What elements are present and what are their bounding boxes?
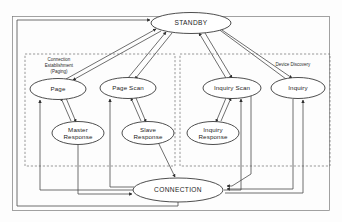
edge-connection-to-page (40, 100, 133, 190)
node-inquiry-scan-label: Inquiry Scan (214, 84, 251, 91)
node-page-scan[interactable]: Page Scan (100, 78, 156, 99)
edge-slave-response-to-page-scan (131, 98, 141, 121)
group-label-connection-establishment-line1: Connection (48, 57, 71, 62)
edge-connection-to-page-scan (110, 99, 134, 187)
bluetooth-state-diagram: Connection Establishment (Paging) Device… (0, 0, 342, 222)
edge-connection-to-inquiry-scan (224, 99, 241, 190)
edge-inquiry-response-to-inquiry-scan (221, 98, 231, 121)
node-inquiry[interactable]: Inquiry (271, 78, 325, 99)
edge-standby-to-page-scan (135, 33, 172, 79)
node-slave-response[interactable]: Slave Response (122, 122, 174, 145)
edge-connection-to-standby (17, 20, 178, 206)
group-box-device-discovery (180, 54, 330, 166)
edge-standby-to-page (73, 31, 161, 80)
group-box-connection-establishment (25, 54, 175, 166)
edge-inquiry-to-standby (217, 28, 286, 79)
node-inquiry-response[interactable]: Inquiry Response (187, 122, 239, 145)
group-label-connection-establishment-line2: Establishment (45, 63, 74, 68)
edge-connection-to-inquiry (225, 100, 303, 193)
node-master-response-label-line2: Response (63, 133, 92, 140)
node-inquiry-scan[interactable]: Inquiry Scan (203, 78, 261, 99)
node-standby[interactable]: STANDBY (151, 13, 231, 34)
node-page-scan-label: Page Scan (112, 84, 144, 91)
node-inquiry-response-label-line2: Response (198, 133, 227, 140)
node-slave-response-label-line1: Slave (140, 126, 157, 133)
node-standby-label: STANDBY (174, 19, 207, 26)
state-diagram-canvas: Connection Establishment (Paging) Device… (0, 0, 342, 222)
edge-slave-response-to-connection (158, 142, 175, 177)
node-inquiry-response-label-line1: Inquiry (203, 126, 223, 133)
group-device-discovery: Device Discovery (180, 54, 330, 166)
node-page-label: Page (50, 85, 65, 92)
group-label-device-discovery: Device Discovery (276, 62, 312, 67)
edge-standby-to-inquiry-scan (205, 33, 232, 78)
node-inquiry-label: Inquiry (288, 84, 308, 91)
edge-inquiry-scan-to-standby (199, 33, 226, 78)
node-slave-response-label-line2: Response (133, 133, 162, 140)
node-page[interactable]: Page (30, 79, 86, 100)
edge-master-response-to-page (61, 98, 71, 121)
edge-inquiry-scan-to-inquiry-response (216, 98, 226, 122)
edge-page-to-master-response (66, 98, 76, 122)
node-master-response-label-line1: Master (68, 126, 88, 133)
edge-inquiry-to-connection (227, 99, 293, 189)
node-master-response[interactable]: Master Response (52, 122, 104, 145)
group-connection-establishment: Connection Establishment (Paging) (25, 54, 175, 166)
edge-page-scan-to-slave-response (136, 98, 146, 122)
node-connection[interactable]: CONNECTION (133, 178, 223, 202)
node-connection-label: CONNECTION (154, 186, 202, 193)
group-label-connection-establishment-line3: (Paging) (50, 69, 68, 74)
